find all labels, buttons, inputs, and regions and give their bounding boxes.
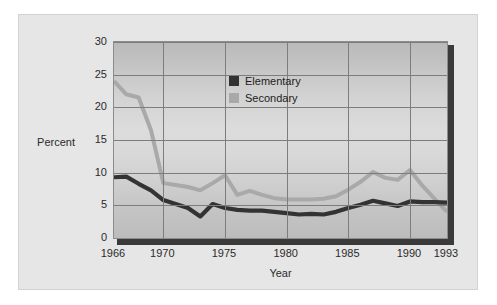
plot-area	[113, 41, 448, 239]
chart-legend: Elementary Secondary	[229, 72, 349, 106]
y-axis-ticks: 302520151050	[77, 41, 107, 239]
x-tick-label: 1993	[416, 247, 476, 259]
y-tick-label: 10	[81, 167, 107, 178]
y-tick-label: 0	[81, 232, 107, 243]
legend-swatch-secondary	[229, 93, 239, 103]
x-tick-label: 1970	[132, 247, 192, 259]
gridline-vertical	[410, 42, 411, 238]
gridline-vertical	[225, 42, 226, 238]
x-tick-label: 1975	[194, 247, 254, 259]
plot-shadow-right	[448, 45, 454, 245]
y-axis-label: Percent	[23, 136, 75, 148]
y-tick-label: 25	[81, 69, 107, 80]
y-tick-label: 5	[81, 199, 107, 210]
legend-item-elementary: Elementary	[229, 72, 349, 89]
x-axis-label: Year	[113, 267, 448, 279]
x-tick-label: 1980	[256, 247, 316, 259]
legend-label-elementary: Elementary	[245, 75, 301, 87]
legend-label-secondary: Secondary	[245, 92, 298, 104]
y-tick-label: 30	[81, 36, 107, 47]
plot-shadow-bottom	[117, 239, 454, 245]
y-tick-label: 20	[81, 101, 107, 112]
x-tick-label: 1985	[317, 247, 377, 259]
y-tick-label: 15	[81, 134, 107, 145]
chart-figure: Percent 302520151050 1966197019751980198…	[18, 14, 478, 290]
x-axis-ticks: 1966197019751980198519901993	[113, 247, 448, 263]
legend-item-secondary: Secondary	[229, 89, 349, 106]
gridline-vertical	[163, 42, 164, 238]
legend-swatch-elementary	[229, 76, 239, 86]
